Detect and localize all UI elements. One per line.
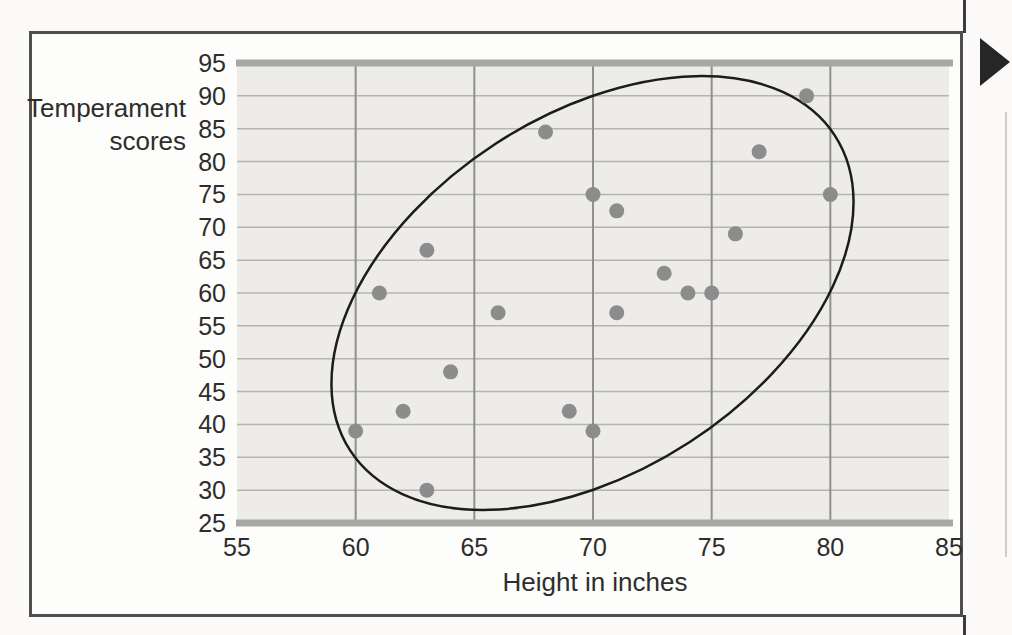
data-point — [562, 404, 577, 419]
x-tick-label: 80 — [816, 533, 844, 561]
data-point — [704, 286, 719, 301]
x-tick-label: 70 — [579, 533, 607, 561]
x-tick-label: 65 — [460, 533, 488, 561]
x-tick-label: 75 — [698, 533, 726, 561]
axis-band — [236, 520, 953, 527]
data-point — [799, 88, 814, 103]
data-point — [491, 305, 506, 320]
data-point — [538, 125, 553, 140]
data-point — [348, 424, 363, 439]
y-tick-label: 40 — [198, 410, 226, 438]
y-tick-label: 65 — [198, 246, 226, 274]
data-point — [609, 305, 624, 320]
data-point — [419, 243, 434, 258]
data-point — [752, 144, 767, 159]
page-column-rule-bottom — [963, 615, 966, 635]
y-tick-label: 55 — [198, 312, 226, 340]
y-tick-label: 70 — [198, 213, 226, 241]
y-axis-title-line2: scores — [0, 125, 186, 158]
data-point — [396, 404, 411, 419]
data-point — [728, 226, 743, 241]
x-axis-title: Height in inches — [445, 567, 745, 598]
y-axis-title-line1: Temperament — [0, 92, 186, 125]
y-tick-label: 60 — [198, 279, 226, 307]
x-tick-label: 55 — [223, 533, 251, 561]
y-tick-label: 75 — [198, 180, 226, 208]
data-point — [419, 483, 434, 498]
y-tick-label: 95 — [198, 49, 226, 77]
y-tick-label: 30 — [198, 476, 226, 504]
y-tick-label: 80 — [198, 148, 226, 176]
data-point — [372, 286, 387, 301]
x-tick-label: 60 — [342, 533, 370, 561]
page-column-rule-top — [963, 0, 966, 33]
data-point — [586, 424, 601, 439]
data-point — [823, 187, 838, 202]
data-point — [609, 203, 624, 218]
x-tick-label: 85 — [935, 533, 963, 561]
figure-page: 9590858075706560555045403530255560657075… — [0, 0, 1012, 635]
axis-band — [236, 60, 953, 67]
data-point — [443, 364, 458, 379]
y-tick-label: 85 — [198, 115, 226, 143]
data-point — [586, 187, 601, 202]
y-tick-label: 45 — [198, 378, 226, 406]
y-tick-label: 90 — [198, 82, 226, 110]
y-tick-label: 50 — [198, 345, 226, 373]
y-tick-label: 25 — [198, 509, 226, 537]
data-point — [657, 266, 672, 281]
data-point — [680, 286, 695, 301]
arrow-right-icon — [980, 38, 1010, 86]
page-edge-line — [1005, 112, 1007, 557]
y-tick-label: 35 — [198, 443, 226, 471]
y-axis-title: Temperament scores — [0, 92, 186, 158]
